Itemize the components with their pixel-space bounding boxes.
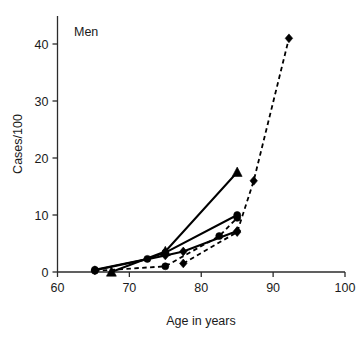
x-tick-label: 80 [194,281,208,295]
y-tick-label: 20 [35,152,49,166]
x-tick-labels: 60708090100 [51,281,356,295]
y-tick-label: 10 [35,209,49,223]
data-point-circle [234,214,241,221]
data-point-diamond [180,247,187,256]
y-tick-label: 40 [35,38,49,52]
data-point-diamond [250,176,257,185]
data-point-circle [162,263,169,270]
x-tick-label: 100 [335,281,356,295]
chart-series [180,34,293,268]
x-tick-label: 70 [122,281,136,295]
y-tick-label: 0 [42,266,49,280]
chart-plot-area: 010203040 60708090100 Men Age in years C… [0,0,361,338]
x-tick-label: 90 [266,281,280,295]
y-axis [53,16,58,272]
series-line [95,215,237,270]
data-point-diamond [233,228,240,237]
x-tick-marks [58,272,346,277]
y-tick-label: 30 [35,95,49,109]
data-point-diamond [180,259,187,268]
data-series-layer [91,34,293,276]
chart-series [106,167,242,276]
data-point-triangle [232,167,242,176]
series-line [111,172,237,272]
data-point-diamond [285,34,292,43]
y-axis-title: Cases/100 [11,114,25,174]
data-point-circle [216,233,223,240]
data-point-circle [91,267,98,274]
y-tick-marks [53,44,58,272]
y-tick-labels: 010203040 [35,38,49,280]
chart-container: 010203040 60708090100 Men Age in years C… [0,0,361,338]
x-axis-title: Age in years [166,314,235,328]
panel-title: Men [74,25,98,39]
x-tick-label: 60 [51,281,65,295]
x-axis [58,272,346,277]
